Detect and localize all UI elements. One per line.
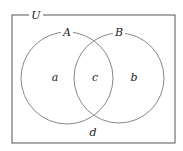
set-b-label: B (114, 26, 123, 39)
set-a-label: A (62, 26, 71, 39)
region-c-label: c (92, 71, 98, 84)
set-a-circle (21, 32, 113, 124)
set-b-circle (74, 33, 164, 123)
venn-diagram: U A B a c b d (0, 0, 183, 151)
region-a-label: a (52, 71, 59, 84)
universe-label: U (31, 9, 41, 22)
region-d-label: d (89, 126, 96, 139)
region-b-label: b (130, 71, 137, 84)
